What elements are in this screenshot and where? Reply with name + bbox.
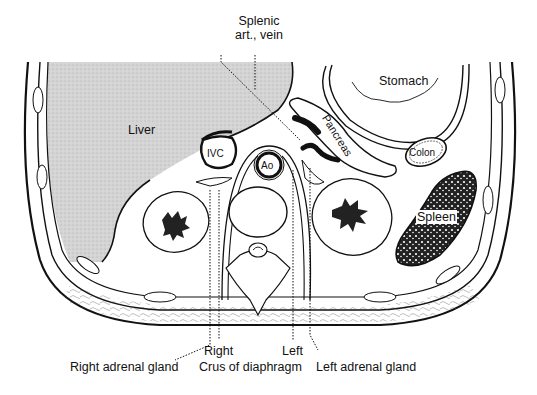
label-ivc: IVC bbox=[207, 147, 224, 161]
label-left-adrenal-gland: Left adrenal gland bbox=[316, 360, 416, 374]
vertebral-body bbox=[229, 187, 287, 237]
label-crus-left: Left bbox=[282, 344, 303, 358]
label-splenic-vessels: Splenic art., vein bbox=[226, 14, 292, 42]
label-stomach: Stomach bbox=[379, 74, 428, 88]
label-spleen: Spleen bbox=[416, 210, 457, 224]
label-aorta: Ao bbox=[261, 159, 273, 173]
label-right-adrenal-gland: Right adrenal gland bbox=[70, 360, 178, 374]
anatomy-cross-section bbox=[0, 0, 537, 395]
label-splenic-line2: art., vein bbox=[226, 28, 292, 42]
label-splenic-line1: Splenic bbox=[226, 14, 292, 28]
label-crus-right: Right bbox=[204, 344, 233, 358]
label-crus-of-diaphragm: Crus of diaphragm bbox=[199, 360, 302, 374]
label-liver: Liver bbox=[127, 123, 156, 137]
label-colon: Colon bbox=[409, 146, 435, 160]
